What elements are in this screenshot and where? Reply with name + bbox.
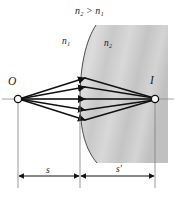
condition-label: n₂ > n₁ <box>75 6 104 16</box>
optics-diagram: n₂ > n₁ n₁ n₂ O I s s′ <box>0 0 175 199</box>
ray-incident-4 <box>19 99 85 110</box>
object-point-marker <box>14 95 21 102</box>
image-point-label: I <box>150 75 154 87</box>
ray-incident-5 <box>19 99 85 120</box>
medium-label-n1: n₁ <box>62 37 70 47</box>
object-distance-label: s <box>46 166 50 176</box>
image-distance-label: s′ <box>116 165 122 175</box>
image-point-marker <box>151 95 158 102</box>
medium-label-n2: n₂ <box>104 39 112 49</box>
diagram-canvas <box>0 0 175 199</box>
object-point-label: O <box>8 76 16 88</box>
